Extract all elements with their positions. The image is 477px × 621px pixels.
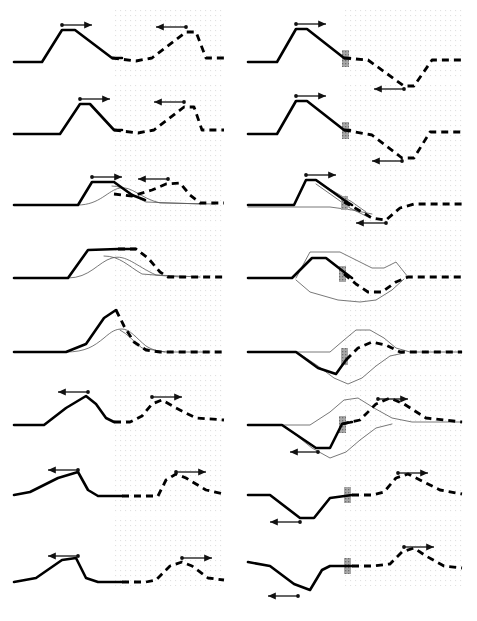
arrow-origin-dot xyxy=(60,23,64,27)
arrow-right xyxy=(294,22,326,26)
solid-waveform-r5c2 xyxy=(248,352,346,374)
arrow-origin-dot xyxy=(400,159,404,163)
shaded-grid-region xyxy=(345,82,465,152)
arrow-origin-dot xyxy=(294,22,298,26)
arrow-origin-dot xyxy=(182,100,186,104)
shaded-grid-layer xyxy=(114,10,465,586)
arrow-origin-dot xyxy=(384,221,388,225)
solid-waveform-r8c1 xyxy=(14,558,122,582)
arrow-origin-dot xyxy=(174,470,178,474)
solid-waveform-r1c1 xyxy=(14,30,122,62)
shaded-grid-region xyxy=(345,443,465,513)
arrow-left xyxy=(268,594,300,598)
arrow-origin-dot xyxy=(296,594,300,598)
arrow-right xyxy=(304,173,336,177)
shaded-grid-region xyxy=(114,153,225,223)
solid-waveform-r7c1 xyxy=(14,472,122,496)
arrow-left xyxy=(270,520,302,524)
solid-waveform-r6c2 xyxy=(248,422,352,448)
arrow-origin-dot xyxy=(402,545,406,549)
shaded-grid-region xyxy=(114,443,225,513)
arrow-origin-dot xyxy=(294,94,298,98)
shaded-grid-region xyxy=(114,516,225,586)
solid-waveform-r5c1 xyxy=(14,310,116,352)
arrow-origin-dot xyxy=(150,395,154,399)
solid-waveform-r6c1 xyxy=(14,396,114,425)
arrow-origin-dot xyxy=(396,471,400,475)
shaded-grid-region xyxy=(345,373,465,443)
shaded-grid-region xyxy=(114,373,225,443)
shaded-grid-region xyxy=(345,300,465,370)
arrow-origin-dot xyxy=(76,468,80,472)
solid-waveform-r1c2 xyxy=(248,29,350,62)
arrow-origin-dot xyxy=(76,554,80,558)
arrow-origin-dot xyxy=(402,87,406,91)
figure-canvas xyxy=(0,0,477,621)
arrow-origin-dot xyxy=(180,556,184,560)
solid-waveform-r7c2 xyxy=(248,495,352,518)
waveform-propagation-figure xyxy=(0,0,477,621)
arrow-origin-dot xyxy=(166,177,170,181)
arrow-left xyxy=(48,468,80,472)
shaded-grid-region xyxy=(345,10,465,80)
solid-waveform-r8c2 xyxy=(248,562,352,590)
shaded-grid-region xyxy=(345,226,465,296)
arrow-origin-dot xyxy=(86,390,90,394)
arrow-right xyxy=(294,94,326,98)
solid-waveform-r2c2 xyxy=(248,101,350,134)
solid-waveform-r2c1 xyxy=(14,104,122,134)
arrow-left xyxy=(58,390,90,394)
arrow-origin-dot xyxy=(184,25,188,29)
arrow-right xyxy=(60,23,92,27)
arrow-origin-dot xyxy=(376,397,380,401)
arrow-left xyxy=(290,450,320,454)
arrow-origin-dot xyxy=(298,520,302,524)
arrow-origin-dot xyxy=(304,173,308,177)
arrow-origin-dot xyxy=(316,450,320,454)
arrow-origin-dot xyxy=(78,97,82,101)
arrow-origin-dot xyxy=(90,175,94,179)
shaded-grid-region xyxy=(345,516,465,586)
solid-waveform-r4c2 xyxy=(248,258,352,278)
arrow-right xyxy=(78,97,110,101)
